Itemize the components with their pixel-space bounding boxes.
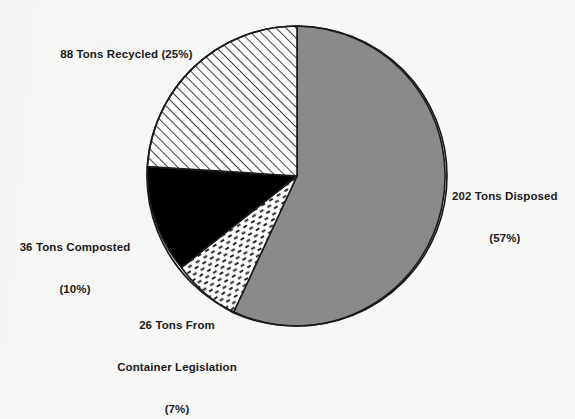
pie-label-container-line3: (7%) <box>97 402 257 416</box>
pie-label-disposed: 202 Tons Disposed (57%) <box>452 161 558 273</box>
pie-label-container-line2: Container Legislation <box>97 360 257 374</box>
pie-label-composted-line1: 36 Tons Composted <box>10 240 140 254</box>
pie-label-container-line1: 26 Tons From <box>97 318 257 332</box>
pie-label-container-legislation: 26 Tons From Container Legislation (7%) <box>97 290 257 419</box>
pie-label-recycled-text: 88 Tons Recycled (25%) <box>60 48 192 60</box>
pie-label-disposed-line1: 202 Tons Disposed <box>452 189 558 203</box>
pie-label-recycled: 88 Tons Recycled (25%) <box>47 33 193 75</box>
pie-label-disposed-line2: (57%) <box>452 231 558 245</box>
